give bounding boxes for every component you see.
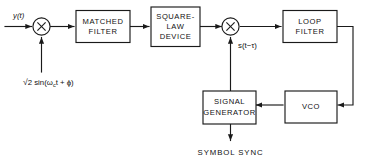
block-vco: VCO <box>285 91 337 123</box>
signal-label-lo-tail: t + ϕ) <box>56 78 74 87</box>
block-signal-generator: SIGNAL GENERATOR <box>203 91 256 124</box>
block-square-law-device-line-2: LAW <box>167 22 185 31</box>
block-signal-generator-line-1: SIGNAL <box>214 97 245 106</box>
multiplier-loop-mixer <box>222 18 239 35</box>
wire-loop-filter-to-vco-feedback <box>337 27 353 106</box>
multiplier-input-mixer <box>33 18 50 35</box>
output-label-symbol-sync: SYMBOL SYNC <box>198 148 264 157</box>
signal-label-lo-main: 2 sin(ω <box>28 78 53 87</box>
block-square-law-device-line-1: SQUARE- <box>156 12 194 21</box>
block-diagram: MATCHED FILTER SQUARE- LAW DEVICE LOOP F… <box>0 0 368 165</box>
block-loop-filter-line-2: FILTER <box>296 27 325 36</box>
block-matched-filter: MATCHED FILTER <box>76 11 130 43</box>
signal-label-local-oscillator: √2 sin(ωct + ϕ) <box>23 77 74 88</box>
block-square-law-device: SQUARE- LAW DEVICE <box>151 7 200 47</box>
block-matched-filter-line-2: FILTER <box>89 27 118 36</box>
block-signal-generator-line-2: GENERATOR <box>203 108 255 117</box>
block-matched-filter-line-1: MATCHED <box>83 17 124 26</box>
block-vco-label: VCO <box>302 102 320 111</box>
signal-label-input: y(t) <box>12 11 25 20</box>
block-loop-filter: LOOP FILTER <box>283 11 337 43</box>
signal-label-delayed-reference: s(t−τ) <box>238 41 257 50</box>
svg-text:√2 sin(ωct + ϕ): √2 sin(ωct + ϕ) <box>23 77 74 88</box>
block-square-law-device-line-3: DEVICE <box>160 32 192 41</box>
diagram-canvas: MATCHED FILTER SQUARE- LAW DEVICE LOOP F… <box>0 0 368 165</box>
block-loop-filter-line-1: LOOP <box>298 17 321 26</box>
